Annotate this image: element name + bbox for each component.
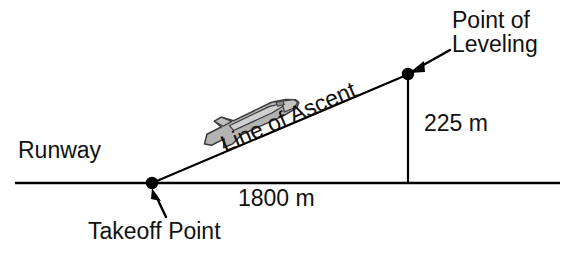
takeoff-point-dot xyxy=(146,177,158,189)
height-measurement-label: 225 m xyxy=(424,111,488,135)
base-measurement-label: 1800 m xyxy=(238,186,315,210)
runway-label: Runway xyxy=(18,138,101,162)
point-of-leveling-line2: Leveling xyxy=(452,31,538,57)
point-of-leveling-label: Point ofLeveling xyxy=(452,8,538,57)
takeoff-arrow xyxy=(151,188,166,217)
diagram-canvas: Runway Point ofLeveling Takeoff Point 22… xyxy=(0,0,575,260)
point-of-leveling-line1: Point of xyxy=(452,7,530,33)
point-of-leveling-dot xyxy=(402,68,414,80)
leveling-arrow xyxy=(409,50,450,73)
takeoff-point-label: Takeoff Point xyxy=(88,219,221,243)
